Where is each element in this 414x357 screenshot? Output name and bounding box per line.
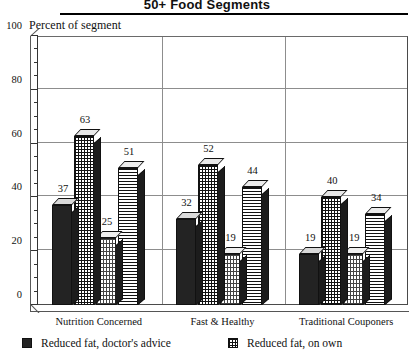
bar-side-3d bbox=[319, 255, 326, 305]
plot-area: 020406080100 376325513252194419401934 bbox=[0, 0, 414, 320]
bar-side-3d bbox=[116, 239, 123, 305]
bar-face bbox=[52, 205, 72, 305]
bar-value-label: 52 bbox=[203, 143, 214, 154]
y-axis-tick-label: 40 bbox=[12, 182, 23, 192]
bar: 37 bbox=[52, 205, 72, 305]
bar-value-label: 19 bbox=[305, 232, 316, 243]
y-axis-tick-label: 0 bbox=[17, 290, 22, 300]
bar: 19 bbox=[299, 254, 319, 305]
bar-value-label: 19 bbox=[225, 232, 236, 243]
bar-value-label: 51 bbox=[124, 146, 135, 157]
category-label: Nutrition Concerned bbox=[37, 316, 161, 327]
category-label: Fast & Healthy bbox=[161, 316, 285, 327]
bar-value-label: 19 bbox=[349, 232, 360, 243]
legend-label: Reduced fat, on own bbox=[247, 337, 342, 349]
legend-label: Reduced fat, doctor's advice bbox=[41, 337, 171, 349]
y-axis-tick-label: 20 bbox=[12, 236, 23, 246]
legend-swatch-icon bbox=[228, 338, 238, 348]
bar-top-3d bbox=[198, 158, 225, 165]
bar-value-label: 37 bbox=[58, 183, 69, 194]
bars-layer: 376325513252194419401934 bbox=[37, 36, 408, 305]
y-axis-tick-label: 60 bbox=[12, 129, 23, 139]
bar-side-3d bbox=[138, 169, 145, 305]
bar-face bbox=[176, 219, 196, 305]
bar-value-label: 44 bbox=[247, 165, 257, 176]
bar-face bbox=[299, 254, 319, 305]
chart-legend: Reduced fat, doctor's adviceReduced fat,… bbox=[0, 337, 414, 357]
y-axis-tick-label: 100 bbox=[6, 21, 22, 31]
legend-item[interactable]: Reduced fat, doctor's advice bbox=[22, 337, 171, 349]
chart-container: 50+ Food Segments Percent of segment 020… bbox=[0, 0, 414, 357]
legend-item[interactable]: Reduced fat, on own bbox=[228, 337, 342, 349]
bar-side-3d bbox=[363, 255, 370, 305]
bar-side-3d bbox=[240, 255, 247, 305]
bar-value-label: 34 bbox=[371, 192, 382, 203]
bar-value-label: 63 bbox=[80, 114, 91, 125]
y-axis: 020406080100 bbox=[24, 36, 38, 305]
bar-value-label: 40 bbox=[327, 175, 338, 186]
bar-top-3d bbox=[242, 180, 269, 187]
bar-side-3d bbox=[218, 166, 225, 305]
bar-side-3d bbox=[262, 188, 269, 305]
y-axis-tick-label: 80 bbox=[12, 75, 23, 85]
bar-value-label: 32 bbox=[181, 197, 192, 208]
bar: 32 bbox=[176, 219, 196, 305]
bar-side-3d bbox=[341, 198, 348, 305]
legend-swatch-icon bbox=[22, 338, 32, 348]
bar-side-3d bbox=[196, 220, 203, 305]
category-labels: Nutrition ConcernedFast & HealthyTraditi… bbox=[0, 316, 414, 332]
bar-side-3d bbox=[72, 206, 79, 305]
bar-side-3d bbox=[94, 136, 101, 305]
bar-value-label: 25 bbox=[102, 216, 113, 227]
bar-top-3d bbox=[321, 190, 348, 197]
category-label: Traditional Couponers bbox=[284, 316, 408, 327]
bar-top-3d bbox=[74, 129, 101, 136]
bar-top-3d bbox=[365, 207, 392, 214]
bar-top-3d bbox=[118, 161, 145, 168]
bar-side-3d bbox=[385, 214, 392, 305]
